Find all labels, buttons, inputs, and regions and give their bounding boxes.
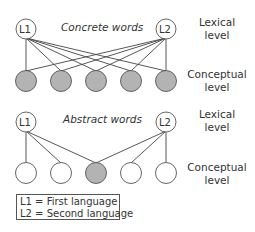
label-line: Conceptual (182, 68, 252, 81)
concept-node (86, 71, 107, 92)
label-line: level (182, 81, 252, 94)
concept-node (16, 163, 37, 184)
concept-node (121, 71, 142, 92)
conceptual-level-label: Conceptual level (182, 68, 252, 94)
label-line: Lexical (182, 16, 252, 29)
node-l2-label: L2 (159, 116, 171, 129)
concrete-conceptual-nodes (16, 71, 177, 92)
node-l2-label: L2 (159, 23, 171, 36)
concept-node (156, 71, 177, 92)
legend: L1 = First language L2 = Second language (16, 194, 120, 220)
lexical-level-label: Lexical level (182, 108, 252, 134)
abstract-conceptual-nodes (16, 163, 177, 184)
concept-node (51, 163, 72, 184)
abstract-links (26, 131, 166, 163)
legend-l1: L1 = First language (20, 196, 116, 208)
legend-l2: L2 = Second language (20, 208, 116, 220)
concept-node (156, 163, 177, 184)
panel-title-concrete: Concrete words (61, 21, 143, 34)
concept-node (16, 71, 37, 92)
node-l1-label: L1 (19, 116, 31, 129)
label-line: level (182, 29, 252, 42)
label-line: level (182, 121, 252, 134)
node-l1-label: L1 (19, 23, 31, 36)
panel-title-abstract: Abstract words (63, 113, 142, 126)
concept-node (121, 163, 142, 184)
label-line: level (182, 174, 252, 187)
conceptual-level-label: Conceptual level (182, 161, 252, 187)
concrete-links (26, 38, 166, 71)
concept-node (86, 163, 107, 184)
lexical-level-label: Lexical level (182, 16, 252, 42)
label-line: Conceptual (182, 161, 252, 174)
concept-node (51, 71, 72, 92)
label-line: Lexical (182, 108, 252, 121)
